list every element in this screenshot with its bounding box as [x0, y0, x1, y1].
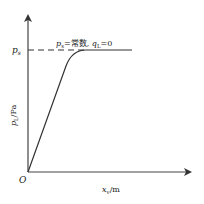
diagram-canvas: ps ps=常数, qL=0 pL/Pa O xv/m	[0, 0, 204, 204]
y-axis-label: pL/Pa	[9, 105, 19, 127]
pressure-curve	[28, 50, 132, 172]
ps-tick-label: ps	[12, 45, 21, 56]
origin-label: O	[19, 175, 27, 185]
annotation-label: ps=常数, qL=0	[56, 38, 112, 49]
x-axis-label: xv/m	[102, 185, 120, 195]
